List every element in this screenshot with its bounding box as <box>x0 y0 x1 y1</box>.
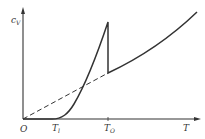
dashed-extrapolation-line <box>23 73 108 119</box>
x-axis-arrow-icon <box>194 117 201 121</box>
cv-curve <box>23 12 197 119</box>
tick-label-t-o: TO <box>104 124 115 134</box>
y-axis-label: cV <box>11 16 20 26</box>
origin-label: O <box>20 125 27 134</box>
x-axis-label: T <box>183 124 189 133</box>
chart-canvas <box>0 0 205 139</box>
y-axis-arrow-icon <box>21 7 25 14</box>
tick-label-t-l: Tl <box>52 124 60 134</box>
